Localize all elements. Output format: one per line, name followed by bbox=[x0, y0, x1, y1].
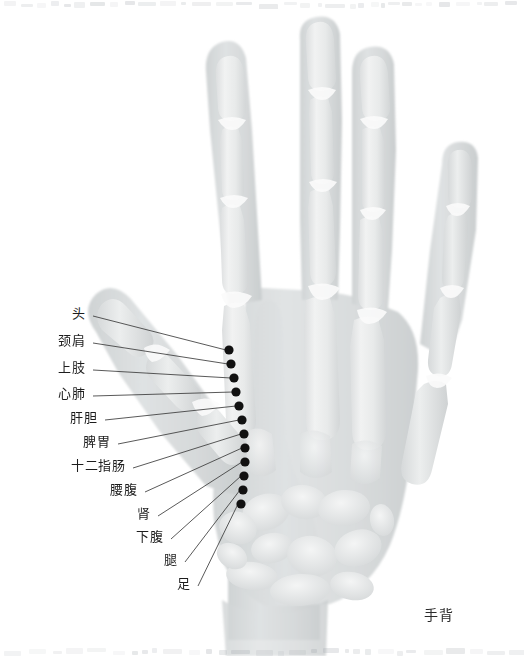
reflex-point-lower-abd[interactable] bbox=[239, 471, 248, 480]
figure-caption: 手背 bbox=[424, 604, 454, 624]
label-head: 头 bbox=[0, 307, 85, 320]
label-foot: 足 bbox=[60, 577, 190, 590]
label-lower-abd: 下腹 bbox=[33, 530, 163, 543]
reflex-point-heart-lung[interactable] bbox=[231, 387, 240, 396]
label-duodenum: 十二指肠 bbox=[0, 459, 125, 472]
reflex-point-foot[interactable] bbox=[236, 499, 245, 508]
reflex-point-liver-gall[interactable] bbox=[234, 401, 243, 410]
reflex-point-spleen[interactable] bbox=[237, 415, 246, 424]
bottom-cropped-text-row bbox=[0, 647, 524, 656]
label-neck: 颈肩 bbox=[0, 334, 85, 347]
reflex-point-neck[interactable] bbox=[226, 359, 235, 368]
reflex-point-head[interactable] bbox=[224, 345, 233, 354]
reflex-point-leg[interactable] bbox=[238, 485, 247, 494]
label-heart-lung: 心肺 bbox=[0, 387, 85, 400]
label-liver-gall: 肝胆 bbox=[0, 411, 97, 424]
reflex-point-lumbar[interactable] bbox=[240, 443, 249, 452]
label-upper-limb: 上肢 bbox=[0, 361, 85, 374]
label-spleen: 脾胃 bbox=[0, 435, 110, 448]
reflex-point-upper-limb[interactable] bbox=[229, 373, 238, 382]
reflex-point-duodenum[interactable] bbox=[239, 429, 248, 438]
label-leg: 腿 bbox=[47, 553, 177, 566]
hand-reflexology-figure: 头颈肩上肢心肺肝胆脾胃十二指肠腰腹肾下腹腿足 手背 bbox=[0, 0, 524, 656]
label-kidney: 肾 bbox=[20, 507, 150, 520]
reflex-point-kidney[interactable] bbox=[240, 457, 249, 466]
label-lumbar: 腰腹 bbox=[7, 483, 137, 496]
